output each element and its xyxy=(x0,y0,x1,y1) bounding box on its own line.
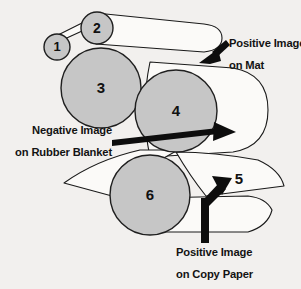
press-diagram-canvas: 3 4 6 2 1 5 xyxy=(0,0,301,289)
roller-6[interactable]: 6 xyxy=(110,155,190,235)
roller-3[interactable]: 3 xyxy=(61,48,141,128)
mat-sheet-top xyxy=(96,13,222,52)
roller-3-label: 3 xyxy=(97,79,105,96)
station-5-label: 5 xyxy=(235,170,243,187)
press-diagram: 3 4 6 2 1 5 xyxy=(0,0,301,289)
label-positive-copy-paper-line1: Positive Image xyxy=(176,246,252,258)
label-negative-blanket: Negative Image on Rubber Blanket xyxy=(15,124,112,158)
label-positive-mat: Positive Image on Mat xyxy=(229,37,301,71)
roller-2-label: 2 xyxy=(93,20,101,36)
label-negative-blanket-line1: Negative Image xyxy=(32,124,112,136)
roller-1-label: 1 xyxy=(53,39,60,54)
roller-2[interactable]: 2 xyxy=(81,12,113,44)
label-positive-copy-paper-line2: on Copy Paper xyxy=(176,268,254,280)
label-positive-mat-line1: Positive Image xyxy=(229,37,301,49)
label-positive-mat-line2: on Mat xyxy=(229,59,265,71)
roller-6-label: 6 xyxy=(146,186,154,203)
roller-4-label: 4 xyxy=(172,102,181,119)
copy-paper-sheet-right xyxy=(176,152,284,196)
roller-1[interactable]: 1 xyxy=(44,34,70,60)
label-positive-copy-paper: Positive Image on Copy Paper xyxy=(176,246,254,280)
label-negative-blanket-line2: on Rubber Blanket xyxy=(15,146,112,158)
